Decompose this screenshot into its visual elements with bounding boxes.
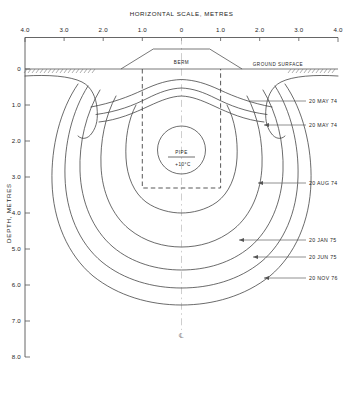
x-tick-label: 2.0 bbox=[99, 26, 109, 33]
y-tick-label: 5.0 bbox=[12, 245, 22, 252]
annotation-label: 20 NOV 76 bbox=[309, 275, 338, 281]
annotation-leaders: 20 MAY 74 20 MAY 74 20 AUG 74 20 JAN 75 … bbox=[239, 98, 338, 281]
berm-label: BERM bbox=[174, 60, 189, 65]
x-axis-tick-labels: 4.0 3.0 2.0 1.0 0 1.0 2.0 3.0 4.0 bbox=[20, 26, 343, 33]
y-axis bbox=[25, 38, 30, 358]
x-tick-label: 3.0 bbox=[294, 26, 304, 33]
centerline-symbol: ℄ bbox=[178, 332, 184, 339]
y-tick-label: 2.0 bbox=[12, 137, 22, 144]
pipe-temperature-label: +10°C bbox=[175, 162, 191, 167]
contour-20-may-74-a bbox=[25, 75, 97, 138]
annotation-label: 20 JUN 75 bbox=[309, 254, 337, 260]
thaw-bulb-figure: HORIZONTAL SCALE, METRES 4.0 3.0 2.0 1.0… bbox=[0, 0, 363, 400]
x-tick-label: 4.0 bbox=[20, 26, 30, 33]
ground-surface-label: GROUND SURFACE bbox=[253, 62, 303, 67]
leader-arrowhead bbox=[239, 238, 244, 242]
y-tick-label: 6.0 bbox=[12, 281, 22, 288]
chart-title: HORIZONTAL SCALE, METRES bbox=[130, 10, 234, 17]
x-tick-label: 2.0 bbox=[255, 26, 265, 33]
y-tick-label: 0 bbox=[17, 65, 21, 72]
y-axis-tick-labels: 0 1.0 2.0 3.0 4.0 5.0 6.0 7.0 8.0 bbox=[12, 65, 22, 360]
thaw-contours bbox=[25, 75, 338, 305]
annotation-label: 20 AUG 74 bbox=[309, 180, 338, 186]
annotation-label: 20 JAN 75 bbox=[309, 237, 336, 243]
annotation-label: 20 MAY 74 bbox=[309, 122, 337, 128]
x-tick-label: 1.0 bbox=[138, 26, 148, 33]
y-tick-label: 1.0 bbox=[12, 101, 22, 108]
annotation-label: 20 MAY 74 bbox=[309, 98, 337, 104]
x-tick-label: 3.0 bbox=[59, 26, 69, 33]
leader-arrowhead bbox=[253, 255, 258, 259]
y-tick-label: 8.0 bbox=[12, 353, 22, 360]
y-axis-title: DEPTH, METRES bbox=[5, 183, 12, 243]
x-tick-label: 4.0 bbox=[333, 26, 343, 33]
y-tick-label: 7.0 bbox=[12, 317, 22, 324]
y-tick-label: 3.0 bbox=[12, 173, 22, 180]
contour-20-may-74-a2 bbox=[266, 75, 338, 138]
pipe-label: PIPE bbox=[175, 150, 187, 155]
leader-arrowhead bbox=[264, 276, 269, 280]
x-tick-label: 0 bbox=[180, 26, 184, 33]
ground-hatching bbox=[24, 69, 335, 73]
y-tick-label: 4.0 bbox=[12, 209, 22, 216]
x-tick-label: 1.0 bbox=[216, 26, 226, 33]
